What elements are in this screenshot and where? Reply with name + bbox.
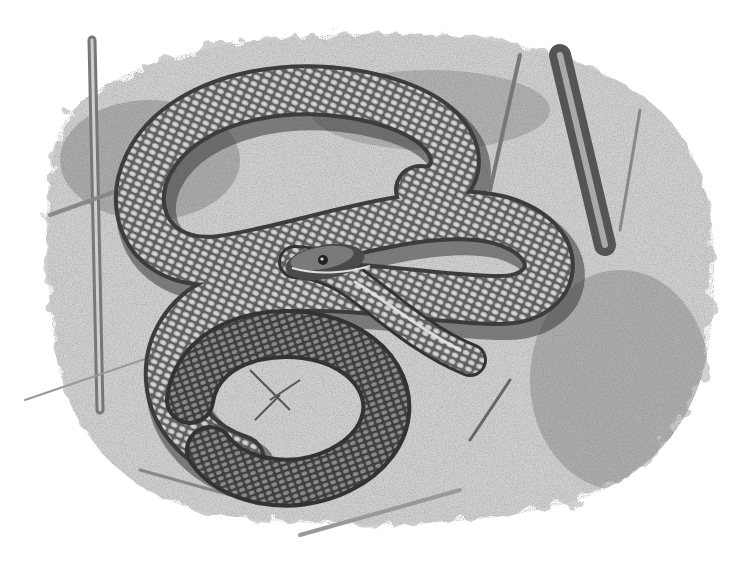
- illustration-canvas: [0, 0, 753, 581]
- snake-illustration: [0, 0, 753, 581]
